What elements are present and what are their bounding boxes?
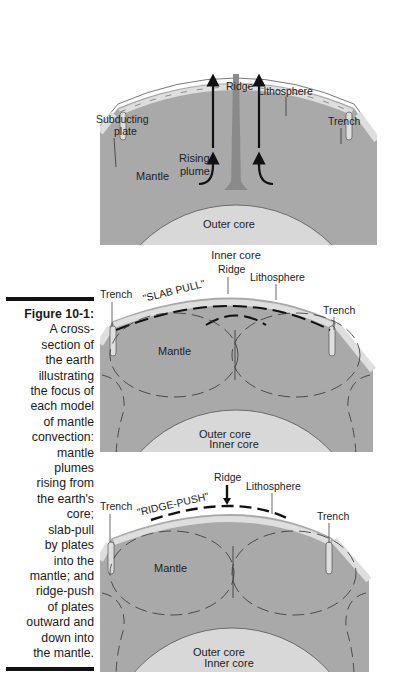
caption-line: of plates	[2, 600, 94, 615]
label-inner-core: Inner core	[194, 657, 264, 669]
subducting-slab-left	[110, 326, 116, 356]
label-ridge: Ridge	[218, 263, 246, 275]
caption-top-rule	[6, 297, 94, 301]
label-trench-left: Trench	[100, 500, 132, 512]
caption-line: ridge-push	[2, 584, 94, 599]
label-trench-left: Trench	[100, 288, 132, 300]
caption-line: the earth	[2, 353, 94, 368]
caption-line: rising from	[2, 476, 94, 491]
subducting-slab-right	[326, 542, 332, 574]
caption-line: down into	[2, 631, 94, 646]
caption-line: by plates	[2, 538, 94, 553]
caption-line: outward and	[2, 615, 94, 630]
caption-line: A cross-	[2, 322, 94, 337]
label-mantle: Mantle	[136, 170, 169, 182]
caption-line: mantle; and	[2, 569, 94, 584]
label-inner-core: Inner core	[199, 438, 269, 450]
caption-line: of mantle	[2, 415, 94, 430]
label-trench-right: Trench	[323, 304, 355, 316]
label-rising-plume-1: Rising	[179, 152, 210, 164]
label-ridge: Ridge	[214, 471, 242, 483]
slab-pull-diagram: Ridge Lithosphere Trench "SLAB PULL" Tre…	[96, 250, 396, 455]
caption-line: slab-pull	[2, 523, 94, 538]
panel-ridge-push: Ridge Lithosphere Trench "RIDGE-PUSH" Tr…	[96, 458, 396, 673]
label-subducting-plate-1: Subducting	[96, 113, 149, 125]
caption-line: illustrating	[2, 369, 94, 384]
label-lithosphere: Lithosphere	[250, 271, 305, 283]
label-outer-core: Outer core	[203, 218, 255, 230]
label-rising-plume-2: plume	[180, 165, 210, 177]
caption-line: convection:	[2, 430, 94, 445]
plume-diagram: Ridge Lithosphere Subducting plate Trenc…	[96, 40, 396, 250]
label-lithosphere: Lithosphere	[258, 85, 313, 97]
caption-line: into the	[2, 554, 94, 569]
label-mantle: Mantle	[154, 562, 187, 574]
label-mantle: Mantle	[158, 345, 191, 357]
caption-line: plumes	[2, 461, 94, 476]
panel-mantle-plume: Ridge Lithosphere Subducting plate Trenc…	[96, 40, 396, 250]
subducting-slab-left	[108, 542, 114, 574]
caption-line: core;	[2, 507, 94, 522]
label-lithosphere: Lithosphere	[246, 480, 301, 492]
caption-line: the focus of	[2, 384, 94, 399]
label-trench-right: Trench	[317, 510, 349, 522]
ridge-push-diagram: Ridge Lithosphere Trench "RIDGE-PUSH" Tr…	[96, 458, 396, 673]
caption-line: the earth's	[2, 492, 94, 507]
subducting-slab-right	[329, 326, 335, 356]
caption-bottom-rule	[6, 667, 94, 671]
label-ridge: Ridge	[226, 80, 254, 92]
caption-line: mantle	[2, 446, 94, 461]
label-subducting-plate-2: plate	[114, 125, 137, 137]
caption-line: the mantle.	[2, 646, 94, 661]
label-trench: Trench	[328, 115, 360, 127]
caption-line: section of	[2, 338, 94, 353]
caption-line: each model	[2, 399, 94, 414]
figure-caption: Figure 10-1: A cross- section of the ear…	[2, 297, 94, 671]
figure-label: Figure 10-1:	[2, 307, 94, 322]
panel-slab-pull: Ridge Lithosphere Trench "SLAB PULL" Tre…	[96, 250, 396, 455]
